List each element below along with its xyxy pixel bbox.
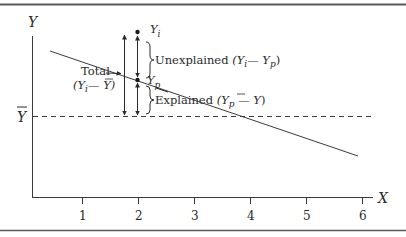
x-tick-label: 3 [191, 209, 199, 223]
total-label-expr: (Yi— Y) [73, 78, 115, 94]
observed-point-label: Yi [150, 22, 161, 39]
axes: Y X 1 2 3 4 5 6 [28, 14, 389, 223]
x-ticks [83, 197, 363, 204]
x-tick-label: 1 [79, 209, 87, 223]
observed-point [135, 30, 139, 34]
regression-diagram: Y X 1 2 3 4 5 6 Y [0, 0, 406, 237]
x-tick-label: 4 [247, 209, 255, 223]
y-axis-label: Y [28, 14, 39, 30]
total-label-title: Total [81, 64, 110, 78]
x-axis-label: X [377, 190, 389, 206]
explained-brace [146, 86, 154, 114]
mean-line-group: Y [17, 107, 373, 125]
x-tick-label: 6 [359, 209, 367, 223]
ybar-label: Y [17, 109, 28, 125]
explained-label: Explained (Yp — Y) [155, 93, 265, 109]
x-tick-label: 5 [303, 209, 311, 223]
unexplained-label: Unexplained (Yi— Yp) [155, 53, 280, 69]
x-tick-label: 2 [135, 209, 143, 223]
predicted-point [135, 78, 139, 82]
